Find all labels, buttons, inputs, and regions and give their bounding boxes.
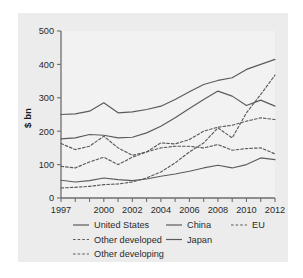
x-tick-label: 2006 xyxy=(179,205,199,215)
x-tick-label: 2012 xyxy=(265,205,285,215)
line-chart: 0100200300400500 19972000200220042006200… xyxy=(18,13,288,262)
y-tick-label: 200 xyxy=(39,127,54,137)
legend-label-eu: EU xyxy=(252,220,265,230)
y-tick-label: 300 xyxy=(39,93,54,103)
x-tick-label: 1997 xyxy=(51,205,71,215)
x-tick-label: 2008 xyxy=(208,205,228,215)
y-tick-label: 500 xyxy=(39,26,54,36)
chart-plot-container: 0100200300400500 19972000200220042006200… xyxy=(18,13,288,262)
x-tick-label: 2000 xyxy=(94,205,114,215)
y-axis-tick-labels: 0100200300400500 xyxy=(39,26,54,203)
y-axis: 0100200300400500 xyxy=(39,26,61,203)
plot-background xyxy=(61,31,275,198)
legend-label-other-developing: Other developing xyxy=(94,249,164,259)
x-axis-tick-labels: 19972000200220042006200820102012 xyxy=(51,205,285,215)
legend-label-china: China xyxy=(187,220,212,230)
y-axis-label: $ bn xyxy=(22,108,33,128)
x-axis: 19972000200220042006200820102012 xyxy=(51,198,285,215)
legend-label-japan: Japan xyxy=(187,235,212,245)
x-tick-label: 2010 xyxy=(236,205,256,215)
chart-legend: United StatesOther developedOther develo… xyxy=(73,220,265,259)
legend-label-united-states: United States xyxy=(94,220,150,230)
y-tick-label: 400 xyxy=(39,60,54,70)
x-tick-label: 2002 xyxy=(122,205,142,215)
legend-label-other-developed: Other developed xyxy=(94,235,162,245)
x-tick-label: 2004 xyxy=(151,205,171,215)
chart-figure-panel: 0100200300400500 19972000200220042006200… xyxy=(18,13,288,262)
y-tick-label: 100 xyxy=(39,160,54,170)
y-tick-label: 0 xyxy=(49,193,54,203)
